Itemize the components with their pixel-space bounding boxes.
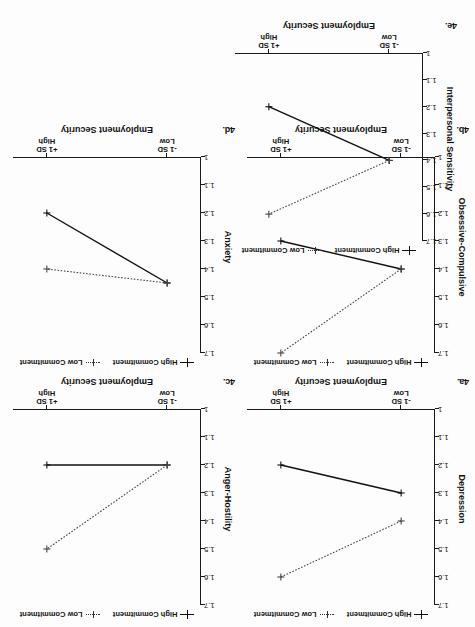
data-point-marker [164, 280, 171, 287]
solid-line-cross-icon [402, 247, 416, 256]
dotted-line-cross-icon [86, 359, 100, 368]
y-tick-label: 1 [204, 405, 208, 413]
solid-line-cross-icon [180, 359, 194, 368]
y-tick-label: 1.1 [426, 76, 436, 84]
data-point-marker [277, 462, 284, 469]
series-line-high-commitment [47, 213, 167, 283]
legend: High CommitmentLow Commitment [247, 355, 435, 371]
data-point-marker [164, 462, 171, 469]
x-axis-label: Employment Security [235, 21, 423, 31]
y-axis-label: Obsessive-Compulsive [457, 197, 467, 296]
panel-4a: 4a. High CommitmentLow Commitment1.71.61… [241, 375, 469, 623]
panel-4c: 4c. High CommitmentLow Commitment1.71.61… [7, 375, 235, 623]
legend: High CommitmentLow Commitment [13, 355, 201, 371]
data-point-marker [398, 518, 405, 525]
y-tick-label: 1.6 [438, 573, 448, 581]
plot-area: 1.71.61.51.41.31.21.11-1 SDLow+1 SDHigh [247, 409, 435, 605]
y-tick-label: 1.6 [426, 210, 436, 218]
y-tick-label: 1.4 [426, 157, 436, 165]
series-line-low-commitment [281, 269, 401, 353]
panel-4c-label: 4c. [223, 377, 235, 387]
solid-line-cross-icon [414, 611, 428, 620]
y-tick-label: 1.5 [426, 184, 436, 192]
legend-item-low-commitment: Low Commitment [20, 611, 100, 620]
dotted-line-cross-icon [320, 611, 334, 620]
x-tick-label-line1: +1 SD [36, 397, 57, 405]
panel-4d: 4d. High CommitmentLow Commitment1.71.61… [7, 123, 235, 371]
x-tick-label: -1 SDLow [392, 389, 411, 405]
legend-label: Low Commitment [20, 611, 83, 620]
legend-item-low-commitment: Low Commitment [20, 359, 100, 368]
x-tick-label-line1: +1 SD [258, 41, 279, 49]
y-tick-label: 1.5 [204, 293, 214, 301]
x-tick-label-line2: High [36, 137, 57, 145]
data-point-marker [386, 157, 393, 164]
data-point-marker [43, 546, 50, 553]
legend: High CommitmentLow Commitment [235, 243, 423, 259]
legend-item-high-commitment: High Commitment [335, 247, 417, 256]
series-layer [235, 53, 423, 241]
panel-4e: 4e. High CommitmentLow Commitment1.71.61… [229, 19, 457, 259]
y-tick-label: 1 [426, 49, 430, 57]
y-axis-label: Depression [457, 474, 467, 523]
y-tick-label: 1.6 [438, 321, 448, 329]
x-tick-label-line2: Low [380, 33, 399, 41]
solid-line-cross-icon [414, 359, 428, 368]
dotted-line-cross-icon [86, 611, 100, 620]
dotted-line-cross-icon [308, 247, 322, 256]
y-tick-label: 1.4 [204, 265, 214, 273]
y-axis-label: Anger-Hostility [223, 467, 233, 532]
x-tick-label: +1 SDHigh [258, 33, 279, 49]
series-line-high-commitment [269, 107, 389, 161]
data-point-marker [43, 266, 50, 273]
series-layer [13, 409, 201, 605]
x-tick-label-line2: High [258, 33, 279, 41]
y-tick-label: 1.3 [438, 489, 448, 497]
legend-label: High Commitment [113, 359, 178, 368]
y-tick-label: 1.1 [438, 433, 448, 441]
data-point-marker [398, 490, 405, 497]
series-line-low-commitment [47, 269, 167, 283]
legend-item-low-commitment: Low Commitment [242, 247, 322, 256]
data-point-marker [265, 211, 272, 218]
x-axis-label: Employment Security [13, 377, 201, 387]
y-tick-label: 1.3 [204, 489, 214, 497]
dotted-line-cross-icon [320, 359, 334, 368]
x-tick-label-line1: -1 SD [158, 397, 177, 405]
legend-label: High Commitment [113, 611, 178, 620]
x-tick-label: +1 SDHigh [270, 389, 291, 405]
x-tick-label-line1: -1 SD [380, 41, 399, 49]
y-tick-label: 1.6 [204, 321, 214, 329]
y-tick-label: 1.5 [438, 545, 448, 553]
x-tick-label-line1: -1 SD [158, 145, 177, 153]
legend-label: Low Commitment [20, 359, 83, 368]
plot-area: 1.71.61.51.41.31.21.11-1 SDLow+1 SDHigh [13, 409, 201, 605]
legend-label: Low Commitment [254, 359, 317, 368]
legend-item-high-commitment: High Commitment [113, 611, 195, 620]
y-tick-label: 1.7 [204, 601, 214, 609]
y-tick-label: 1.7 [438, 601, 448, 609]
x-tick-label-line1: +1 SD [270, 397, 291, 405]
legend: High CommitmentLow Commitment [247, 607, 435, 623]
legend-label: Low Commitment [254, 611, 317, 620]
series-line-low-commitment [269, 160, 389, 214]
y-tick-label: 1.7 [204, 349, 214, 357]
solid-line-cross-icon [180, 611, 194, 620]
data-point-marker [43, 462, 50, 469]
legend-item-low-commitment: Low Commitment [254, 359, 334, 368]
data-point-marker [277, 350, 284, 357]
x-tick-label: -1 SDLow [158, 389, 177, 405]
series-layer [247, 409, 435, 605]
x-tick-label: +1 SDHigh [36, 137, 57, 153]
legend-item-low-commitment: Low Commitment [254, 611, 334, 620]
data-point-marker [277, 574, 284, 581]
legend-label: High Commitment [335, 247, 400, 256]
series-line-high-commitment [281, 465, 401, 493]
x-tick-label-line2: Low [158, 389, 177, 397]
y-tick-label: 1.4 [204, 517, 214, 525]
x-axis-label: Employment Security [247, 377, 435, 387]
legend-item-high-commitment: High Commitment [347, 611, 429, 620]
y-tick-label: 1.5 [438, 293, 448, 301]
x-tick-label-line1: +1 SD [36, 145, 57, 153]
y-tick-label: 1.2 [426, 103, 436, 111]
